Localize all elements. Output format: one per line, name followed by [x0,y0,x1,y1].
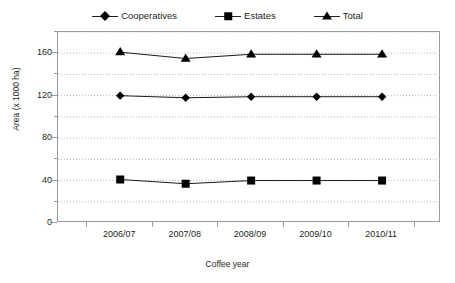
data-point-marker[interactable] [116,91,124,99]
data-point-marker[interactable] [181,94,189,102]
y-tick-label: 0 [22,217,52,227]
data-point-marker[interactable] [313,177,321,185]
y-axis-tick [52,222,57,223]
triangle-marker-icon [314,11,340,21]
data-point-marker[interactable] [378,177,386,185]
y-axis-tick [54,31,57,32]
x-tick-label: 2010/11 [346,229,416,239]
legend-label-cooperatives: Cooperatives [121,11,177,21]
y-axis-tick [54,201,57,202]
square-marker-icon [215,11,241,21]
data-point-marker[interactable] [378,93,386,101]
legend-item-cooperatives[interactable]: Cooperatives [92,11,177,21]
data-point-marker[interactable] [247,93,255,101]
data-point-marker[interactable] [181,53,191,61]
series-canvas [58,32,441,223]
y-axis-tick-labels: 16012080400 [18,0,52,283]
y-axis-tick [52,95,57,96]
y-tick-label: 120 [22,90,52,100]
y-axis-tick [54,73,57,74]
data-point-marker[interactable] [116,175,124,183]
legend-label-total: Total [343,11,363,21]
y-axis-tick [52,52,57,53]
y-tick-label: 160 [22,47,52,57]
x-tick-label: 2008/09 [215,229,285,239]
x-axis-tick [414,222,415,227]
x-axis-title: Coffee year [0,259,455,269]
data-point-marker[interactable] [247,177,255,185]
x-axis-tick [217,222,218,227]
plot-area [57,31,440,222]
x-tick-label: 2007/08 [150,229,220,239]
data-point-marker[interactable] [182,180,190,188]
y-tick-label: 80 [22,132,52,142]
legend-label-estates: Estates [244,11,276,21]
x-axis-tick [86,222,87,227]
legend-item-total[interactable]: Total [314,11,363,21]
chart-legend: Cooperatives Estates Total [0,7,455,25]
x-axis-tick [283,222,284,227]
x-axis-tick [152,222,153,227]
y-axis-tick [52,137,57,138]
data-point-marker[interactable] [115,47,125,55]
x-axis-tick [348,222,349,227]
diamond-marker-icon [92,11,118,21]
y-axis-tick [54,158,57,159]
data-point-marker[interactable] [312,93,320,101]
chart-figure: Cooperatives Estates Total Area (x 1000 … [0,0,455,283]
legend-item-estates[interactable]: Estates [215,11,276,21]
y-tick-label: 40 [22,175,52,185]
y-axis-tick [54,116,57,117]
x-tick-label: 2009/10 [281,229,351,239]
y-axis-tick [52,180,57,181]
x-tick-label: 2006/07 [84,229,154,239]
